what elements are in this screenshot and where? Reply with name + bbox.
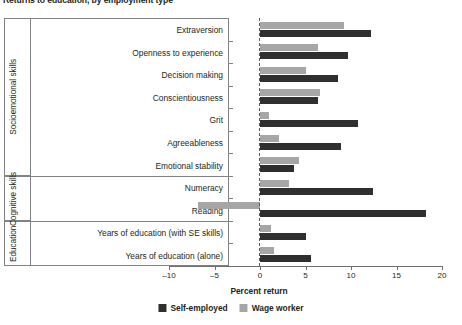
category-row-tick [229, 131, 233, 132]
category-row-tick [229, 176, 233, 177]
group-separator [30, 176, 229, 177]
group-label-cognitive-skills: Cognitive skills [9, 176, 18, 221]
bar-wage-worker [260, 157, 299, 164]
x-axis-tick [442, 266, 443, 270]
bar-self-employed [260, 165, 294, 172]
bar-wage-worker [260, 180, 289, 187]
figure-returns-to-education: Returns to education, by employment type… [0, 0, 462, 325]
category-row-tick [229, 198, 233, 199]
bar-wage-worker [260, 135, 279, 142]
bar-self-employed [260, 75, 338, 82]
bar-self-employed [260, 143, 341, 150]
category-row-tick [229, 243, 233, 244]
category-row-tick [229, 86, 233, 87]
bar-wage-worker [260, 225, 271, 232]
legend-swatch-self-employed [158, 304, 166, 312]
bar-self-employed [260, 233, 306, 240]
bar-self-employed [260, 97, 318, 104]
x-axis-tick-label: 15 [392, 271, 401, 280]
x-axis-tick [397, 266, 398, 270]
plot-area [169, 18, 442, 266]
x-axis-tick [306, 266, 307, 270]
category-row-tick [229, 108, 233, 109]
zero-reference-line [259, 18, 261, 266]
category-row-tick [229, 63, 233, 64]
bar-self-employed [260, 120, 358, 127]
bar-wage-worker [260, 67, 306, 74]
bar-wage-worker [260, 112, 269, 119]
bar-wage-worker [260, 44, 318, 51]
x-axis-title: Percent return [230, 286, 287, 296]
category-row-tick [229, 153, 233, 154]
legend-label-wage-worker: Wage worker [252, 303, 304, 313]
x-axis-tick [215, 266, 216, 270]
x-axis-tick-label: 0 [258, 271, 262, 280]
legend-item-wage-worker: Wage worker [240, 303, 304, 313]
bar-self-employed [260, 30, 371, 37]
category-row-tick [229, 221, 233, 222]
x-axis-tick [351, 266, 352, 270]
x-axis-tick [169, 266, 170, 270]
chart-legend: Self-employed Wage worker [158, 303, 303, 313]
group-label-socioemotional-skills: Socioemotional skills [9, 18, 18, 176]
bar-wage-worker [260, 247, 274, 254]
bar-wage-worker [260, 22, 344, 29]
bar-self-employed [260, 255, 311, 262]
bar-self-employed [260, 188, 373, 195]
group-label-education: Education [9, 221, 18, 266]
legend-item-self-employed: Self-employed [158, 303, 227, 313]
x-axis-tick-label: 10 [347, 271, 356, 280]
category-row-tick [229, 41, 233, 42]
legend-label-self-employed: Self-employed [170, 303, 227, 313]
chart-title: Returns to education, by employment type [3, 0, 173, 5]
x-axis-tick-label: 5 [303, 271, 307, 280]
x-axis-tick-label: 20 [438, 271, 447, 280]
x-axis-tick-label: –10 [162, 271, 175, 280]
bar-wage-worker [260, 89, 320, 96]
bar-self-employed [260, 210, 426, 217]
x-axis-tick [260, 266, 261, 270]
group-separator [30, 221, 229, 222]
x-axis-tick-label: –5 [210, 271, 219, 280]
legend-swatch-wage-worker [240, 304, 248, 312]
bar-self-employed [260, 52, 348, 59]
bar-wage-worker [198, 202, 260, 209]
